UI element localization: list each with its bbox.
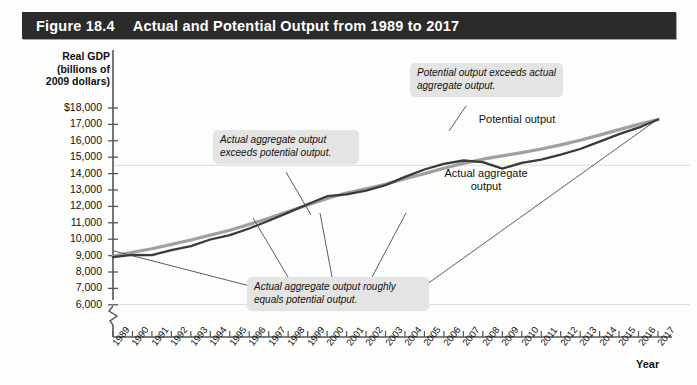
potential-output-line <box>113 120 658 257</box>
y-axis-tick-label: 10,000 <box>26 232 102 244</box>
y-axis-tick-label: 8,000 <box>26 265 102 277</box>
y-axis-tick-label: 16,000 <box>26 134 102 146</box>
y-axis-tick-label: 14,000 <box>26 167 102 179</box>
series-label-actual-output: Actual aggregate output <box>432 167 540 193</box>
y-axis-tick-label: 6,000 <box>26 298 102 310</box>
y-axis-tick-label: 12,000 <box>26 199 102 211</box>
annotation-actual-exceeds-potential: Actual aggregate output exceeds potentia… <box>213 130 359 163</box>
y-axis-tick-label: 17,000 <box>26 117 102 129</box>
y-axis-tick-label: $18,000 <box>26 101 102 113</box>
y-axis-tick-label: 11,000 <box>26 216 102 228</box>
y-axis-tick-label: 15,000 <box>26 150 102 162</box>
y-axis-tick-label: 7,000 <box>26 281 102 293</box>
figure-container: Figure 18.4 Actual and Potential Output … <box>0 0 697 385</box>
x-axis-title: Year <box>636 358 659 370</box>
y-axis-tick-label: 13,000 <box>26 183 102 195</box>
axis-break-icon <box>109 306 117 325</box>
annotation-roughly-equals: Actual aggregate output roughly equals p… <box>247 277 429 310</box>
y-axis-tick-label: 9,000 <box>26 249 102 261</box>
annotation-leader-lines <box>114 106 658 292</box>
series-label-potential-output: Potential output <box>478 113 556 126</box>
annotation-potential-exceeds-actual: Potential output exceeds actual aggregat… <box>410 63 563 96</box>
